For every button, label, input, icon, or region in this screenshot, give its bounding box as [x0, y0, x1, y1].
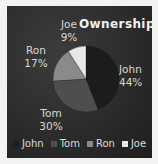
pie-svg: [52, 45, 120, 113]
pie-graphic: [52, 45, 120, 113]
slice-label-ron: Ron 17%: [19, 44, 53, 69]
legend-item-tom[interactable]: Tom: [51, 138, 80, 149]
slice-label-john-percent: 44%: [119, 76, 152, 89]
page-title: Ownership: [79, 17, 152, 31]
pie-chart-panel: Ownership Joe 9% Ron 17% John 44% Tom 30…: [7, 6, 152, 158]
legend-label-ron: Ron: [96, 138, 115, 149]
slice-label-joe-name: Joe: [54, 18, 84, 31]
slice-label-joe-percent: 9%: [54, 31, 84, 44]
slice-label-john: John 44%: [119, 63, 152, 88]
slice-label-john-name: John: [119, 63, 152, 76]
legend-label-tom: Tom: [60, 138, 80, 149]
legend-item-john[interactable]: John: [13, 138, 44, 149]
legend-label-joe: Joe: [131, 138, 146, 149]
legend-label-john: John: [22, 138, 44, 149]
slice-label-ron-percent: 17%: [19, 57, 53, 70]
legend-swatch-icon-tom: [51, 141, 57, 147]
slice-label-tom-percent: 30%: [34, 120, 68, 133]
chart-legend: JohnTomRonJoe: [7, 138, 152, 149]
legend-item-joe[interactable]: Joe: [122, 138, 146, 149]
legend-swatch-icon-john: [13, 141, 19, 147]
slice-label-ron-name: Ron: [19, 44, 53, 57]
legend-swatch-icon-joe: [122, 141, 128, 147]
slice-label-joe: Joe 9%: [54, 18, 84, 43]
legend-item-ron[interactable]: Ron: [87, 138, 115, 149]
pie-slices: [53, 46, 119, 112]
legend-swatch-icon-ron: [87, 141, 93, 147]
chart-image-frame: Ownership Joe 9% Ron 17% John 44% Tom 30…: [0, 0, 158, 164]
